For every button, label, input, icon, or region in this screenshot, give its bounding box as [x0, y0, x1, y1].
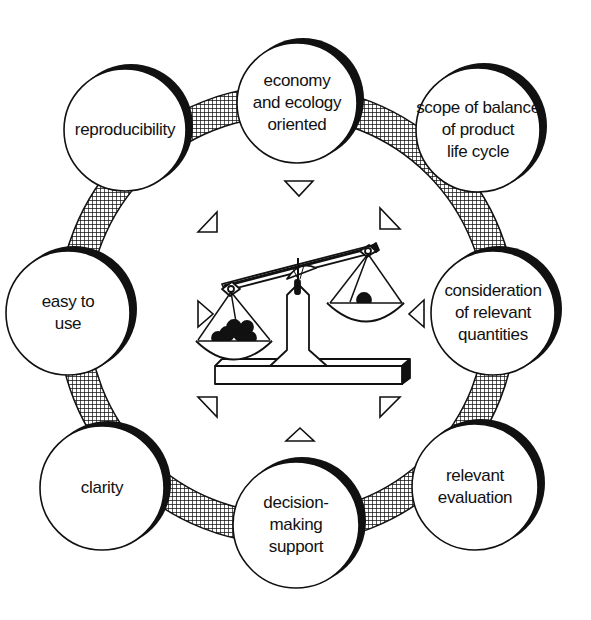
triangle-left-icon [198, 301, 213, 327]
triangle-bottom-left-icon [198, 397, 217, 417]
triangle-bottom-icon [286, 428, 314, 441]
node-label-economy-ecology: economy and ecology oriented [237, 43, 357, 163]
triangle-right-icon [409, 300, 424, 327]
triangle-top-right-icon [380, 208, 400, 229]
node-label-easy-to-use: easy to use [6, 251, 130, 375]
triangle-bottom-right-icon [380, 397, 400, 417]
node-label-scope-balance: scope of balance of product life cycle [416, 68, 540, 192]
triangle-top-left-icon [198, 212, 217, 232]
node-label-relevant-evaluation: relevant evaluation [412, 424, 538, 550]
node-label-reproducibility: reproducibility [64, 69, 186, 191]
triangle-top-icon [285, 181, 313, 196]
balance-scale-icon [196, 243, 410, 384]
node-label-consideration: consideration of relevant quantities [431, 251, 555, 375]
node-label-clarity: clarity [40, 426, 164, 550]
node-label-decision-making: decision- making support [233, 462, 359, 588]
